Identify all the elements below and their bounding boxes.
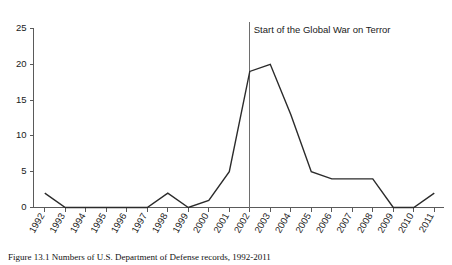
x-tick-label: 2010 [395, 211, 415, 235]
y-tick-label: 10 [16, 129, 27, 140]
x-tick-label: 2007 [334, 211, 354, 235]
chart-plot-area: 0510152025199219931994199519961997199819… [0, 0, 452, 248]
figure-container: 0510152025199219931994199519961997199819… [0, 0, 452, 265]
caption-text: Figure 13.1 Numbers of U.S. Department o… [8, 252, 271, 262]
x-tick-label: 2006 [313, 211, 333, 235]
figure-caption: Figure 13.1 Numbers of U.S. Department o… [8, 252, 448, 263]
x-tick-label: 1994 [67, 211, 87, 235]
x-tick-label: 1992 [26, 211, 46, 235]
y-tick-label: 0 [21, 201, 26, 212]
y-tick-label: 15 [16, 94, 27, 105]
y-tick-label: 25 [16, 22, 27, 33]
x-tick-label: 1996 [108, 211, 128, 235]
x-tick-label: 1998 [149, 211, 169, 235]
x-tick-label: 1995 [88, 211, 108, 235]
annotation-label: Start of the Global War on Terror [254, 24, 391, 35]
line-chart: 0510152025199219931994199519961997199819… [0, 0, 452, 248]
y-tick-label: 20 [16, 58, 27, 69]
data-series-line [45, 64, 435, 207]
x-tick-label: 2011 [416, 211, 436, 234]
x-tick-label: 1999 [170, 211, 190, 235]
y-tick-label: 5 [21, 165, 26, 176]
x-tick-label: 2004 [272, 211, 292, 235]
x-tick-label: 2003 [252, 211, 272, 235]
x-tick-label: 1997 [129, 211, 149, 235]
x-tick-label: 2001 [211, 211, 231, 235]
x-tick-label: 2005 [293, 211, 313, 235]
x-tick-label: 2009 [375, 211, 395, 235]
x-tick-label: 2000 [190, 211, 210, 235]
x-tick-label: 2002 [231, 211, 251, 235]
x-tick-label: 2008 [354, 211, 374, 235]
x-tick-label: 1993 [47, 211, 67, 235]
